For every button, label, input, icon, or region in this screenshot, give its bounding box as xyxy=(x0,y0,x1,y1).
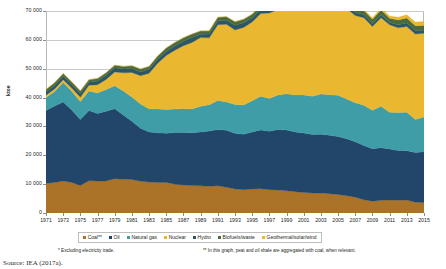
chart-legend: Coal**OilNatural gasNuclearHydroBiofuels… xyxy=(78,232,322,243)
x-axis-tick-label: 2013 xyxy=(401,217,413,223)
x-axis-tick-label: 1981 xyxy=(126,217,138,223)
x-axis-tick-mark xyxy=(287,213,288,216)
x-axis-tick-label: 1973 xyxy=(57,217,69,223)
legend-swatch-icon xyxy=(262,236,265,239)
stacked-area-series xyxy=(46,11,424,213)
x-axis-tick-label: 1987 xyxy=(178,217,190,223)
x-axis-tick-mark xyxy=(201,213,202,216)
x-axis-tick-mark xyxy=(80,213,81,216)
y-axis-tick-label: 10 000 xyxy=(26,182,42,187)
x-axis-tick-mark xyxy=(235,213,236,216)
y-axis-title: ktoe xyxy=(5,85,11,96)
legend-label: Coal** xyxy=(88,235,102,240)
y-axis-tick-label: 70 000 xyxy=(26,8,42,13)
x-axis-tick-mark xyxy=(321,213,322,216)
legend-item-coal[interactable]: Coal** xyxy=(83,235,102,240)
x-axis-tick-mark xyxy=(407,213,408,216)
x-axis-tick-mark xyxy=(355,213,356,216)
y-axis-tick-label: 60 000 xyxy=(26,37,42,42)
x-axis-tick-label: 1975 xyxy=(75,217,87,223)
legend-item-natural-gas[interactable]: Natural gas xyxy=(127,235,157,240)
x-axis-tick-mark xyxy=(63,213,64,216)
footnote-peat-oil-shale: ** In this graph, peat and oil shale are… xyxy=(203,248,356,253)
x-axis-tick-mark xyxy=(149,213,150,216)
x-axis-tick-label: 2009 xyxy=(367,217,379,223)
y-axis-tick-label: 40 000 xyxy=(26,95,42,100)
legend-swatch-icon xyxy=(164,236,167,239)
x-axis-tick-label: 1983 xyxy=(143,217,155,223)
y-axis-tick-label: 50 000 xyxy=(26,66,42,71)
x-axis-tick-mark xyxy=(252,213,253,216)
x-axis-tick-label: 1985 xyxy=(160,217,172,223)
y-axis-tick-label: 30 000 xyxy=(26,124,42,129)
legend-swatch-icon xyxy=(127,236,130,239)
x-axis-tick-mark xyxy=(218,213,219,216)
x-axis-tick-mark xyxy=(132,213,133,216)
x-axis-tick-label: 2015 xyxy=(418,217,430,223)
x-axis-tick-label: 2011 xyxy=(384,217,395,223)
x-axis-tick-mark xyxy=(115,213,116,216)
x-axis-tick-label: 1997 xyxy=(264,217,276,223)
legend-label: Geothermal/solar/wind xyxy=(267,235,317,240)
legend-label: Biofuels/waste xyxy=(223,235,255,240)
legend-swatch-icon xyxy=(193,236,196,239)
x-axis-tick-label: 1971 xyxy=(40,217,52,223)
legend-item-geothermal-solar-wind[interactable]: Geothermal/solar/wind xyxy=(262,235,317,240)
y-axis: ktoe 010 00020 00030 00040 00050 00060 0… xyxy=(0,0,46,213)
legend-item-biofuels-waste[interactable]: Biofuels/waste xyxy=(218,235,255,240)
x-axis-tick-mark xyxy=(424,213,425,216)
footnote-excluding-electricity-trade: * Excluding electricity trade. xyxy=(58,248,114,253)
x-axis-tick-label: 1993 xyxy=(229,217,241,223)
x-axis-tick-mark xyxy=(183,213,184,216)
x-axis-tick-mark xyxy=(338,213,339,216)
x-axis-tick-label: 1999 xyxy=(281,217,293,223)
x-axis-tick-mark xyxy=(304,213,305,216)
legend-swatch-icon xyxy=(83,236,86,239)
legend-label: Nuclear xyxy=(169,235,186,240)
chart-figure: ktoe 010 00020 00030 00040 00050 00060 0… xyxy=(0,0,446,269)
x-axis-tick-label: 2005 xyxy=(332,217,344,223)
source-citation: Source: IEA (2017a). xyxy=(3,259,63,269)
legend-label: Hydro xyxy=(198,235,211,240)
y-axis-tick-label: 20 000 xyxy=(26,153,42,158)
x-axis-tick-label: 1979 xyxy=(109,217,121,223)
x-axis-tick-label: 1991 xyxy=(212,217,224,223)
x-axis: 1971197319751977197919811983198519871989… xyxy=(46,213,424,227)
legend-item-oil[interactable]: Oil xyxy=(109,235,120,240)
x-axis-tick-mark xyxy=(390,213,391,216)
y-axis-tick-label: 0 xyxy=(39,210,42,215)
legend-swatch-icon xyxy=(109,236,112,239)
x-axis-tick-label: 1995 xyxy=(246,217,258,223)
legend-item-hydro[interactable]: Hydro xyxy=(193,235,211,240)
x-axis-tick-mark xyxy=(372,213,373,216)
legend-label: Natural gas xyxy=(131,235,157,240)
x-axis-tick-mark xyxy=(46,213,47,216)
x-axis-tick-label: 1989 xyxy=(195,217,207,223)
x-axis-tick-label: 1977 xyxy=(92,217,104,223)
x-axis-tick-label: 2007 xyxy=(349,217,361,223)
x-axis-tick-mark xyxy=(166,213,167,216)
legend-label: Oil xyxy=(114,235,120,240)
legend-item-nuclear[interactable]: Nuclear xyxy=(164,235,186,240)
x-axis-tick-mark xyxy=(269,213,270,216)
x-axis-tick-label: 2003 xyxy=(315,217,327,223)
x-axis-tick-label: 2001 xyxy=(298,217,310,223)
plot-area xyxy=(46,11,424,213)
footnotes: * Excluding electricity trade. ** In thi… xyxy=(0,248,446,258)
x-axis-tick-mark xyxy=(98,213,99,216)
legend-swatch-icon xyxy=(218,236,221,239)
